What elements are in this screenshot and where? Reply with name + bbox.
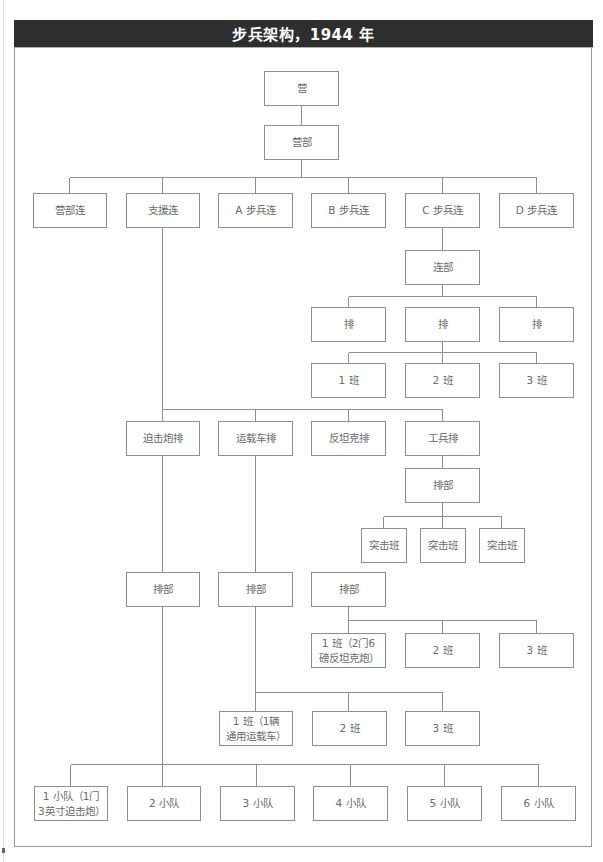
node-mortar-detachment-1: 1 小队（1门 3英寸迫击炮）: [34, 786, 108, 821]
node-platoon-3: 排: [499, 307, 574, 342]
node-carrier-platoon: 运载车排: [218, 421, 293, 456]
node-carrier-section-2: 2 班: [312, 711, 387, 746]
node-assault-section-2: 突击班: [420, 528, 466, 563]
node-assault-section-3: 突击班: [479, 528, 525, 563]
node-antitank-platoon-hq: 排部: [311, 572, 386, 607]
node-b-company: B 步兵连: [311, 193, 386, 228]
node-battalion: 营: [264, 71, 339, 106]
node-hq-company: 营部连: [33, 193, 107, 228]
node-mortar-platoon: 迫击炮排: [126, 421, 200, 456]
node-d-company: D 步兵连: [499, 193, 574, 228]
node-mortar-detachment-6: 6 小队: [501, 786, 576, 821]
node-mortar-detachment-5: 5 小队: [407, 786, 482, 821]
node-mortar-detachment-2: 2 小队: [127, 786, 201, 821]
node-carrier-section-3: 3 班: [405, 711, 480, 746]
node-carrier-section-1: 1 班（1辆 通用运载车）: [219, 711, 293, 746]
node-platoon-2: 排: [405, 307, 480, 342]
node-pioneer-platoon: 工兵排: [405, 421, 480, 456]
node-pioneer-hq: 排部: [405, 468, 480, 503]
node-antitank-section-3: 3 班: [499, 633, 574, 668]
node-section-1: 1 班: [311, 363, 386, 398]
node-mortar-detachment-4: 4 小队: [313, 786, 388, 821]
node-antitank-section-1: 1 班（2门6 磅反坦克炮）: [311, 633, 386, 668]
node-section-2: 2 班: [405, 363, 480, 398]
node-platoon-1: 排: [311, 307, 386, 342]
node-company-hq: 连部: [405, 250, 480, 285]
node-support-company: 支援连: [126, 193, 200, 228]
node-mortar-platoon-hq: 排部: [126, 572, 200, 607]
node-c-company: C 步兵连: [405, 193, 480, 228]
node-battalion-hq: 营部: [264, 125, 339, 160]
node-section-3: 3 班: [499, 363, 574, 398]
node-assault-section-1: 突击班: [361, 528, 407, 563]
node-antitank-section-2: 2 班: [405, 633, 480, 668]
node-antitank-platoon: 反坦克排: [311, 421, 386, 456]
node-carrier-platoon-hq: 排部: [218, 572, 293, 607]
node-mortar-detachment-3: 3 小队: [220, 786, 295, 821]
node-a-company: A 步兵连: [218, 193, 293, 228]
